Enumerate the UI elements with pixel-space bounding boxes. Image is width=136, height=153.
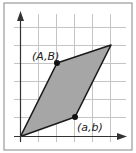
parallelogram-figure: (A,B) (a,b) (0, 0, 136, 153)
point-a-b (72, 114, 78, 120)
label-a-b: (a,b) (77, 121, 103, 134)
label-A-B: (A,B) (32, 50, 59, 63)
